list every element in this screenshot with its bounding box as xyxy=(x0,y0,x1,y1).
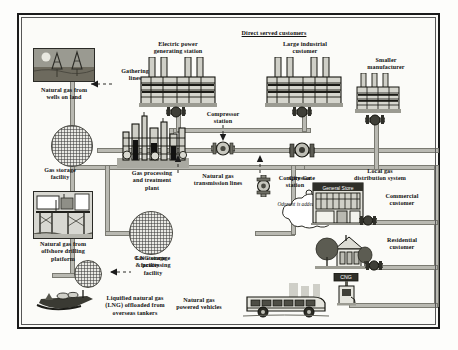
label-gas-storage-left: Gas storage facility xyxy=(25,167,95,182)
label-direct-served-customers: Direct served customers xyxy=(224,30,324,37)
valve-electric-power xyxy=(166,105,186,119)
valve-smaller-manufacturer xyxy=(365,113,385,127)
pipe-vehicles xyxy=(349,303,438,308)
pipe-storage-mid-riser xyxy=(105,165,110,235)
svg-text:General Store: General Store xyxy=(322,185,353,191)
label-compressor-top: Compressor station xyxy=(195,111,251,126)
label-large-industrial: Large industrial customer xyxy=(267,41,343,56)
icon-commercial-store: General Store xyxy=(311,181,365,225)
label-electric-power: Electric power generating station xyxy=(138,41,218,56)
tank-gas-storage-left xyxy=(51,125,93,167)
label-smaller-manufacturer: Smaller manufacturer xyxy=(355,57,417,72)
gathering-lines-arrow xyxy=(77,77,121,91)
diagram-frame: Natural gas from wells on land Gathering… xyxy=(17,13,440,329)
valve-commercial xyxy=(359,214,377,227)
pipe-lng-join xyxy=(52,273,76,278)
icon-electric-power-station xyxy=(139,57,217,109)
transmission-arrow-left xyxy=(173,151,183,175)
pipe-smaller-mfr-riser xyxy=(374,120,379,170)
svg-text:CNG: CNG xyxy=(340,274,352,280)
pipe-direct-served-bus xyxy=(169,128,311,133)
tank-gas-storage-mid xyxy=(129,211,173,255)
icon-smaller-manufacturer xyxy=(355,73,401,117)
tank-lng-facility xyxy=(74,260,102,288)
transmission-arrow-right xyxy=(255,151,265,175)
valve-large-industrial xyxy=(292,105,312,119)
icon-large-industrial xyxy=(265,57,343,109)
label-ng-vehicles: Natural gas powered vehicles xyxy=(159,297,239,312)
photo-offshore-platform xyxy=(33,191,93,239)
label-gas-storage-mid: Gas storage facility xyxy=(115,255,185,270)
label-residential-customer: Residential customer xyxy=(371,237,433,252)
valve-city-gate xyxy=(289,141,315,159)
label-transmission-lines: Natural gas transmission lines xyxy=(177,173,259,188)
icon-ng-bus xyxy=(243,283,329,319)
diagram-page: Natural gas from wells on land Gathering… xyxy=(0,0,458,350)
label-commercial-customer: Commercial customer xyxy=(371,193,433,208)
icon-cng-station: CNG xyxy=(331,273,361,307)
pipe-storage-mid xyxy=(105,231,131,236)
valve-residential xyxy=(365,259,383,272)
pipe-local-right-riser xyxy=(434,165,439,307)
valve-compressor-top xyxy=(211,140,235,157)
